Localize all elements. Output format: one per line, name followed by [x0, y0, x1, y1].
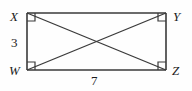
side-measure-bottom: 7 — [91, 74, 98, 87]
vertex-label-Y: Y — [173, 10, 180, 23]
vertex-label-Z: Z — [172, 64, 179, 77]
side-measure-left: 3 — [11, 36, 18, 49]
vertex-label-W: W — [9, 64, 20, 77]
geometry-figure: X Y Z W 3 7 — [0, 0, 192, 91]
vertex-label-X: X — [10, 10, 18, 23]
